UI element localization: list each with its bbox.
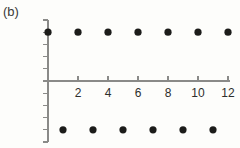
data-point [89,126,96,133]
data-point [119,126,126,133]
data-point [209,126,216,133]
data-point [164,29,171,36]
data-point [224,29,231,36]
data-point [44,29,51,36]
data-point [134,29,141,36]
data-point [194,29,201,36]
scatter-plot [0,0,240,148]
data-point [74,29,81,36]
figure-panel: (b) 2·52·01·51·00·50−0·5−1·0−1·5−2·0−2·5… [0,0,240,148]
data-point [179,126,186,133]
data-point [149,126,156,133]
data-point [59,126,66,133]
axes [43,20,230,142]
data-point [104,29,111,36]
